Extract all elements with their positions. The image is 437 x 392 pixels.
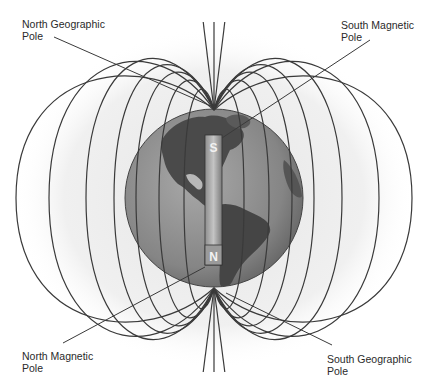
magnet-n-label: N [209, 250, 218, 264]
bar-magnet: S N [205, 135, 222, 265]
label-line: Pole [341, 31, 414, 43]
label-south-geographic-pole: South Geographic Pole [327, 353, 412, 377]
label-line: South Geographic [327, 353, 412, 365]
label-south-magnetic-pole: South Magnetic Pole [341, 19, 414, 43]
label-north-geographic-pole: North Geographic Pole [22, 18, 105, 42]
label-line: Pole [22, 362, 93, 374]
label-line: North Magnetic [22, 350, 93, 362]
label-line: South Magnetic [341, 19, 414, 31]
magnet-s-label: S [209, 141, 217, 155]
label-line: Pole [327, 365, 412, 377]
magnetic-field-diagram: S N [0, 0, 437, 392]
label-line: Pole [22, 30, 105, 42]
label-north-magnetic-pole: North Magnetic Pole [22, 350, 93, 374]
label-line: North Geographic [22, 18, 105, 30]
